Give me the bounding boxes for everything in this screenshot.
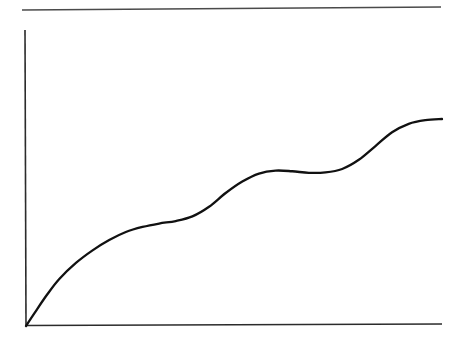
y-axis [25,30,26,326]
figure-root: Unlabeled hand-drawn line chart: a monot… [0,0,457,347]
plot-background [0,0,457,347]
line-chart-canvas [0,0,457,347]
